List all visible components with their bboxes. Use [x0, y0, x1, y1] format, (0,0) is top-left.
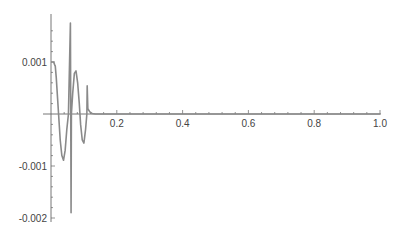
x-tick-label: 0.2 [110, 118, 124, 129]
x-tick-label: 0.6 [241, 118, 255, 129]
x-tick-label: 1.0 [373, 118, 387, 129]
y-tick-label: -0.001 [19, 161, 48, 172]
data-line [51, 23, 380, 213]
y-tick-label: 0.001 [22, 57, 47, 68]
axes [43, 14, 381, 222]
axis-ticks [51, 31, 380, 218]
x-tick-label: 0.8 [307, 118, 321, 129]
line-chart: 0.20.40.60.81.00.001-0.001-0.002 [0, 0, 403, 237]
x-tick-label: 0.4 [176, 118, 190, 129]
y-tick-label: -0.002 [19, 213, 48, 224]
